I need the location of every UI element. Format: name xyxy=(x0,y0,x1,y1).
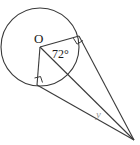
right-angle-marker-lower-icon xyxy=(35,77,43,83)
central-angle-label: 72° xyxy=(52,47,69,61)
radius-to-lower-tangent xyxy=(37,47,40,85)
center-label: O xyxy=(34,31,43,46)
external-angle-label: y xyxy=(95,108,101,120)
geometry-canvas: O 72° y xyxy=(0,0,140,145)
radius-to-upper-tangent xyxy=(40,36,79,47)
geometry-diagram: O 72° y xyxy=(0,0,140,145)
